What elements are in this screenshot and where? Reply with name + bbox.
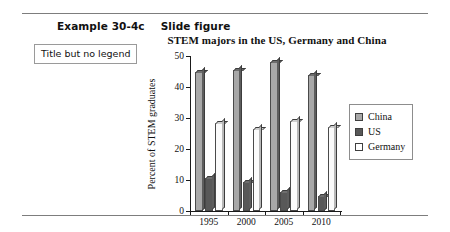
bar-china-1995 (195, 72, 203, 212)
y-axis-tick-label: 40 (175, 82, 185, 92)
example-label: Example 30-4c (57, 20, 145, 32)
y-axis-line (190, 56, 191, 211)
legend-label: Germany (368, 141, 405, 152)
bar-germany-2005 (290, 121, 298, 211)
bar-germany-2010 (328, 127, 336, 211)
x-axis-tick (340, 211, 341, 215)
bar-side-face (297, 116, 300, 210)
y-axis-tick-label: 30 (175, 113, 185, 123)
legend-item-china: China (355, 109, 405, 124)
bar-side-face (277, 57, 280, 210)
legend-label: China (368, 111, 392, 122)
chart-legend: ChinaUSGermany (349, 104, 413, 160)
y-axis-tick-label: 10 (175, 175, 185, 185)
legend-swatch-icon (355, 113, 363, 121)
plot-area: 01020304050 1995200020052010 (190, 56, 340, 211)
slide-figure-page: Example 30-4cSlide figure Title but no l… (0, 0, 450, 232)
bar-us-2005 (280, 192, 288, 211)
bar-china-2010 (308, 75, 316, 211)
y-axis-tick (186, 180, 190, 181)
x-axis-tick-label: 2010 (312, 217, 331, 227)
x-axis-tick (265, 211, 266, 215)
x-axis-tick (303, 211, 304, 215)
x-axis-tick-label: 2005 (274, 217, 293, 227)
y-axis-tick-label: 20 (175, 144, 185, 154)
bar-germany-2000 (253, 129, 261, 211)
x-axis-tick (228, 211, 229, 215)
bottom-divider (22, 215, 428, 216)
bar-side-face (314, 70, 317, 210)
x-axis-tick-label: 1995 (199, 217, 218, 227)
x-axis-line (190, 211, 342, 212)
bar-germany-1995 (215, 123, 223, 211)
chart-title: STEM majors in the US, Germany and China (143, 34, 411, 46)
legend-label: US (368, 126, 381, 137)
y-axis-tick-label: 50 (175, 51, 185, 61)
top-divider (22, 13, 428, 14)
legend-item-us: US (355, 124, 405, 139)
bar-side-face (334, 122, 337, 210)
y-axis-title: Percent of STEM graduates (144, 56, 158, 211)
legend-swatch-icon (355, 143, 363, 151)
bar-us-2010 (318, 196, 326, 212)
bar-us-1995 (205, 178, 213, 211)
annotation-callout: Title but no legend (34, 44, 137, 64)
bar-china-2005 (270, 62, 278, 211)
bar-china-2000 (233, 70, 241, 211)
y-axis-title-text: Percent of STEM graduates (146, 78, 157, 189)
y-axis-tick (186, 56, 190, 57)
y-axis-tick (186, 87, 190, 88)
bar-us-2000 (243, 182, 251, 211)
bar-side-face (259, 124, 262, 210)
y-axis-tick (186, 149, 190, 150)
x-axis-tick (190, 211, 191, 215)
chart: STEM majors in the US, Germany and China… (143, 30, 439, 215)
bar-side-face (222, 118, 225, 210)
y-axis-tick (186, 118, 190, 119)
y-axis-tick-label: 0 (179, 206, 184, 216)
legend-swatch-icon (355, 128, 363, 136)
x-axis-tick-label: 2000 (237, 217, 256, 227)
legend-item-germany: Germany (355, 139, 405, 154)
